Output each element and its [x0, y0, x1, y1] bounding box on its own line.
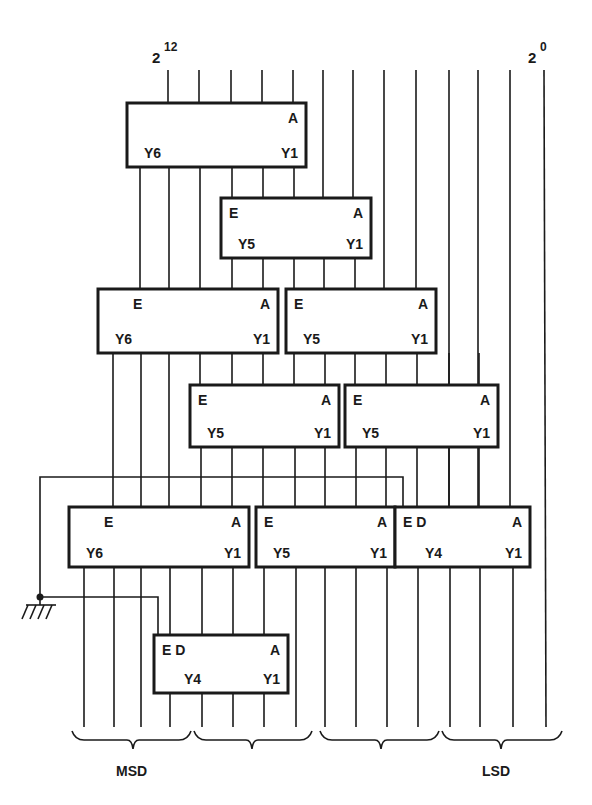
adder-block: AY6Y1: [127, 103, 306, 167]
block-label-lsb-output: Y1: [473, 425, 490, 441]
wire: [544, 70, 546, 727]
msb-weight-label: 2: [152, 49, 160, 66]
block-label-a: A: [260, 296, 270, 312]
adder-block: EAY6Y1: [98, 289, 278, 353]
block-label-enable: E: [353, 392, 362, 408]
block-label-msb-output: Y5: [238, 236, 255, 252]
adder-block: EAY5Y1: [190, 385, 339, 447]
block-label-a: A: [480, 392, 490, 408]
block-label-msb-output: Y5: [273, 545, 290, 561]
block-label-msb-output: Y4: [425, 545, 442, 561]
adder-block: E DAY4Y1: [154, 635, 288, 693]
block-label-lsb-output: Y1: [281, 145, 298, 161]
digit-group-brace: [320, 731, 439, 749]
block-label-msb-output: Y4: [184, 671, 201, 687]
adder-block: EAY6Y1: [69, 507, 249, 567]
block-label-msb-output: Y5: [207, 425, 224, 441]
junction-dot: [37, 594, 44, 601]
block-label-enable: E: [294, 296, 303, 312]
msd-label: MSD: [116, 763, 147, 779]
lsd-label: LSD: [482, 763, 510, 779]
digit-group-brace: [442, 731, 562, 749]
block-label-lsb-output: Y1: [263, 671, 280, 687]
digit-group-brace: [194, 731, 312, 749]
block-label-a: A: [512, 514, 522, 530]
block-label-enable: E D: [403, 514, 426, 530]
ground-hatch: [30, 605, 36, 619]
block-label-msb-output: Y5: [362, 425, 379, 441]
adder-block: EAY5Y1: [345, 385, 498, 447]
block-label-msb-output: Y6: [86, 545, 103, 561]
block-label-a: A: [418, 296, 428, 312]
adder-tree-diagram: AY6Y1EAY5Y1EAY6Y1EAY5Y1EAY5Y1EAY5Y1EAY6Y…: [0, 0, 592, 805]
adder-block: EAY5Y1: [221, 198, 371, 258]
block-label-lsb-output: Y1: [505, 545, 522, 561]
block-label-lsb-output: Y1: [346, 236, 363, 252]
block-label-enable: E: [198, 392, 207, 408]
block-label-a: A: [288, 110, 298, 126]
adder-block: E DAY4Y1: [395, 507, 530, 567]
block-label-lsb-output: Y1: [370, 545, 387, 561]
block-label-a: A: [377, 514, 387, 530]
block-label-msb-output: Y6: [115, 331, 132, 347]
lsb-weight-label: 2: [528, 49, 536, 66]
adder-block: EAY5Y1: [286, 289, 436, 353]
block-label-enable: E: [104, 514, 113, 530]
block-label-lsb-output: Y1: [411, 331, 428, 347]
block-label-enable: E: [264, 514, 273, 530]
ground-hatch: [46, 605, 52, 619]
block-label-lsb-output: Y1: [253, 331, 270, 347]
brace-layer: [72, 731, 562, 749]
block-label-a: A: [270, 642, 280, 658]
lsb-weight-exponent: 0: [540, 40, 547, 54]
block-label-enable: E: [229, 205, 238, 221]
block-label-enable: E D: [162, 642, 185, 658]
block-label-msb-output: Y6: [144, 145, 161, 161]
block-label-enable: E: [133, 296, 142, 312]
block-label-a: A: [353, 205, 363, 221]
block-label-a: A: [321, 392, 331, 408]
block-label-a: A: [231, 514, 241, 530]
digit-group-brace: [72, 731, 191, 749]
msb-weight-exponent: 12: [164, 40, 178, 54]
block-label-lsb-output: Y1: [224, 545, 241, 561]
ground-hatch: [38, 605, 44, 619]
adder-block: EAY5Y1: [256, 507, 395, 567]
block-label-msb-output: Y5: [303, 331, 320, 347]
block-layer: AY6Y1EAY5Y1EAY6Y1EAY5Y1EAY5Y1EAY5Y1EAY6Y…: [69, 103, 530, 693]
block-label-lsb-output: Y1: [314, 425, 331, 441]
ground-hatch: [22, 605, 28, 619]
